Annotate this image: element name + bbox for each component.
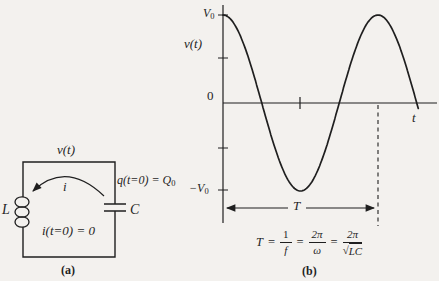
figure-line-art	[0, 0, 439, 281]
graph-period-label: T	[293, 199, 300, 212]
caption-a: (a)	[61, 264, 75, 276]
circuit-wire-loop	[23, 162, 115, 257]
circuit-voltage-label: v(t)	[57, 143, 75, 156]
vmin-text: −V	[189, 181, 204, 195]
radical-sign: √	[343, 244, 349, 256]
initial-charge-text: q(t=0) = Q	[117, 173, 171, 187]
period-formula: T = 1f = 2πω = 2π√LC	[256, 229, 362, 256]
frac1-numerator: 1	[280, 229, 292, 243]
inductor-coil-icon	[15, 197, 29, 227]
current-direction-arrow	[33, 177, 104, 196]
equals-sign: =	[331, 236, 338, 249]
graph-vmin-label: −V0	[189, 182, 209, 194]
initial-charge-subscript: 0	[171, 178, 175, 188]
graph-zero-label: 0	[207, 89, 214, 102]
initial-charge-label: q(t=0) = Q0	[117, 174, 175, 186]
formula-lhs: T	[256, 236, 263, 249]
fraction-2pi-over-sqrt-lc: 2π√LC	[343, 229, 363, 256]
frac3-numerator: 2π	[343, 229, 363, 243]
vmax-subscript: 0	[210, 11, 214, 21]
frac3-denominator: √LC	[343, 243, 363, 256]
fraction-2pi-over-omega: 2πω	[309, 229, 326, 256]
current-label: i	[63, 180, 67, 193]
frac2-numerator: 2π	[309, 229, 326, 243]
capacitor-label: C	[130, 203, 139, 217]
graph-vmax-label: V0	[203, 7, 215, 19]
frac1-denominator: f	[284, 243, 287, 256]
frac2-denominator: ω	[313, 243, 321, 256]
graph-curve-label: v(t)	[184, 37, 202, 50]
vmin-subscript: 0	[204, 186, 208, 196]
graph-time-axis-label: t	[412, 111, 416, 124]
initial-current-label: i(t=0) = 0	[42, 224, 95, 237]
figure-lc-circuit-and-waveform: v(t) L C i q(t=0) = Q0 i(t=0) = 0 (a) V0…	[0, 0, 439, 281]
equals-sign: =	[268, 236, 275, 249]
capacitor-plates-icon	[104, 204, 126, 211]
caption-b: (b)	[302, 265, 317, 277]
inductor-label: L	[2, 203, 10, 217]
equals-sign: =	[297, 236, 304, 249]
radicand: LC	[349, 243, 362, 257]
fraction-one-over-f: 1f	[280, 229, 292, 256]
